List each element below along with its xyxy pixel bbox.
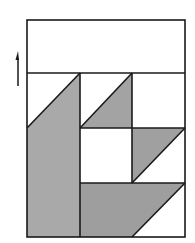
quilt-diagram	[0, 0, 195, 243]
grain-arrow-icon	[16, 51, 20, 86]
bottom-trapezoid	[80, 183, 185, 237]
left-tall-piece	[27, 73, 80, 237]
